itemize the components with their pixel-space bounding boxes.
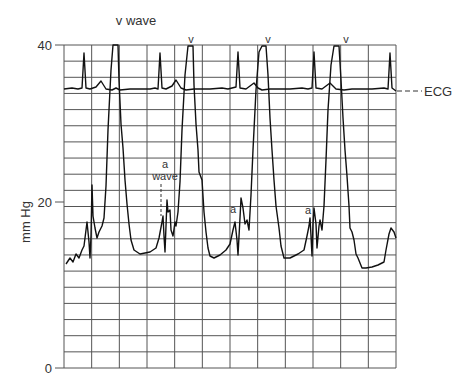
- y-axis: 40 20 0 mm Hg: [18, 38, 64, 376]
- y-tick-20: 20: [38, 195, 52, 210]
- a-wave-label-wave: wave: [151, 170, 178, 182]
- pressure-trace: [66, 45, 396, 268]
- y-tick-40: 40: [38, 38, 52, 53]
- v-label-2: v: [265, 33, 271, 45]
- y-axis-label: mm Hg: [18, 201, 33, 243]
- a-wave-label-a: a: [162, 158, 169, 170]
- y-tick-0: 0: [45, 361, 52, 376]
- pressure-ecg-chart: 40 20 0 mm Hg v wave v v v a wave a a EC…: [0, 0, 464, 387]
- v-label-1: v: [188, 33, 194, 45]
- v-label-3: v: [343, 33, 349, 45]
- ecg-label: ECG: [424, 84, 452, 99]
- v-wave-label: v wave: [116, 13, 156, 28]
- a-label-3: a: [305, 204, 312, 216]
- annotations: v wave v v v a wave a a ECG: [116, 13, 452, 216]
- a-label-2: a: [230, 203, 237, 215]
